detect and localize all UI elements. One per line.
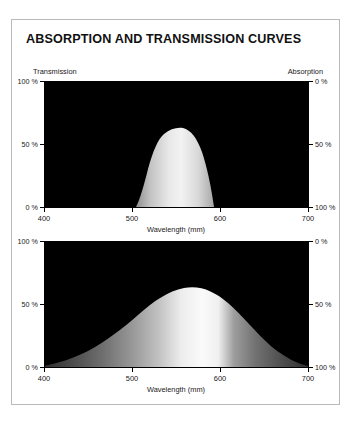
xaxis-title-2: Wavelength (mm) — [147, 385, 205, 394]
ytick-mark-right-0-1 — [309, 81, 313, 82]
xtick-label-500-2: 500 — [126, 374, 138, 383]
xtick-label-500-1: 500 — [126, 214, 138, 223]
xtick-mark-500-2 — [132, 368, 133, 372]
xtick-mark-700-2 — [308, 368, 309, 372]
plot-area-2 — [44, 241, 308, 367]
ytick-mark-left-50-2 — [40, 304, 44, 305]
axis-line-top-2 — [44, 241, 309, 242]
ytick-label-right-0-1: 0 % — [315, 77, 327, 86]
ytick-label-right-100-2: 100 % — [315, 363, 335, 372]
plot-area-1 — [44, 81, 308, 207]
xtick-label-400-1: 400 — [38, 214, 50, 223]
left-axis-heading: Transmission — [33, 67, 77, 76]
page-title: ABSORPTION AND TRANSMISSION CURVES — [26, 32, 301, 46]
xtick-mark-600-2 — [220, 368, 221, 372]
axis-line-left-2 — [44, 241, 45, 368]
ytick-mark-right-100-1 — [309, 207, 313, 208]
xtick-label-600-2: 600 — [214, 374, 226, 383]
xtick-label-600-1: 600 — [214, 214, 226, 223]
ytick-mark-right-50-2 — [309, 304, 313, 305]
figure-transmission-broad: 100 % 50 % 0 % 0 % 50 % 100 % 400 500 60… — [12, 227, 341, 403]
ytick-mark-right-100-2 — [309, 367, 313, 368]
chart-card: ABSORPTION AND TRANSMISSION CURVES Trans… — [11, 19, 340, 405]
ytick-label-left-100-2: 100 % — [18, 237, 38, 246]
ytick-label-left-0-2: 0 % — [26, 363, 38, 372]
ytick-label-right-50-1: 50 % — [315, 140, 331, 149]
ytick-mark-left-100-1 — [40, 81, 44, 82]
ytick-label-right-50-2: 50 % — [315, 300, 331, 309]
axis-line-bottom-2 — [44, 367, 309, 368]
axis-line-top-1 — [44, 81, 309, 82]
ytick-label-left-0-1: 0 % — [26, 203, 38, 212]
axis-line-left-1 — [44, 81, 45, 208]
curve-broad-band — [44, 241, 308, 367]
xtick-mark-700-1 — [308, 208, 309, 212]
ytick-mark-right-50-1 — [309, 144, 313, 145]
xtick-label-400-2: 400 — [38, 374, 50, 383]
xtick-mark-400-1 — [44, 208, 45, 212]
ytick-label-right-0-2: 0 % — [315, 237, 327, 246]
ytick-label-left-50-1: 50 % — [22, 140, 38, 149]
figure-transmission-narrow: Transmission Absorption — [12, 67, 341, 243]
xtick-mark-400-2 — [44, 368, 45, 372]
axis-line-bottom-1 — [44, 207, 309, 208]
ytick-mark-left-100-2 — [40, 241, 44, 242]
ytick-label-left-50-2: 50 % — [22, 300, 38, 309]
xtick-label-700-2: 700 — [302, 374, 314, 383]
xtick-mark-500-1 — [132, 208, 133, 212]
xtick-label-700-1: 700 — [302, 214, 314, 223]
ytick-mark-right-0-2 — [309, 241, 313, 242]
right-axis-heading: Absorption — [288, 67, 323, 76]
xtick-mark-600-1 — [220, 208, 221, 212]
curve-narrow-band — [44, 81, 308, 207]
ytick-mark-left-50-1 — [40, 144, 44, 145]
ytick-label-left-100-1: 100 % — [18, 77, 38, 86]
ytick-label-right-100-1: 100 % — [315, 203, 335, 212]
